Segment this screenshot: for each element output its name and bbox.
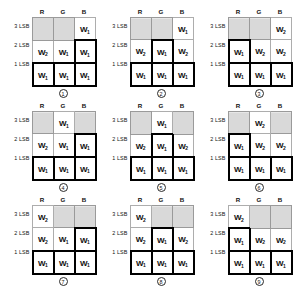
watermark-symbol: W1 xyxy=(80,231,90,250)
cell-r-2lsb: W1 xyxy=(229,134,250,157)
column-header-g: G xyxy=(53,6,74,17)
watermark-subscript: 1 xyxy=(87,29,90,35)
watermark-subscript: 2 xyxy=(45,145,48,151)
matrix-row: W1W1W1 xyxy=(33,157,96,180)
matrix-row: W2W1W1 xyxy=(33,40,96,63)
watermark-symbol: W1 xyxy=(255,254,265,273)
column-header-row: RGB xyxy=(228,6,293,17)
panel-4: 3 LSB2 LSB1 LSBRGBW1W2W1W1W1W1W14 xyxy=(3,100,99,192)
row-label-column: 3 LSB2 LSB1 LSB xyxy=(104,194,130,262)
watermark-subscript: 1 xyxy=(87,145,90,151)
watermark-symbol: W1 xyxy=(59,254,69,273)
panel-row: 3 LSB2 LSB1 LSBRGBW1W2W1W1W1W1W143 LSB2 … xyxy=(3,100,295,192)
matrix-row: W2 xyxy=(229,206,292,229)
panel-1: 3 LSB2 LSB1 LSBRGBW1W2W1W1W1W1W11 xyxy=(3,6,99,98)
column-header-b: B xyxy=(74,194,95,205)
column-header-b: B xyxy=(74,100,95,111)
watermark-subscript: 1 xyxy=(185,29,188,35)
watermark-symbol: W1 xyxy=(59,66,69,85)
row-label-3: 1 LSB xyxy=(6,243,32,262)
matrix-row: W2W1W2 xyxy=(131,134,194,157)
cell-g-3lsb: W1 xyxy=(54,112,75,134)
watermark-symbol: W2 xyxy=(136,42,146,61)
cell-b-3lsb xyxy=(271,112,292,134)
matrix-row: W1W1W1 xyxy=(229,63,292,86)
matrix-row: W1W1W1 xyxy=(131,251,194,274)
cell-g-2lsb: W1 xyxy=(54,134,75,157)
watermark-symbol: W1 xyxy=(234,231,244,250)
watermark-symbol: W1 xyxy=(59,136,69,155)
panel-9: 3 LSB2 LSB1 LSBRGBW2W1W2W2W1W1W19 xyxy=(199,194,295,286)
watermark-symbol: W1 xyxy=(178,254,188,273)
cell-r-1lsb: W1 xyxy=(33,251,54,274)
cell-b-1lsb: W1 xyxy=(271,63,292,86)
cell-g-3lsb: W1 xyxy=(152,112,173,135)
watermark-symbol: W1 xyxy=(234,137,244,156)
cell-r-3lsb: W2 xyxy=(33,206,54,228)
watermark-symbol: W1 xyxy=(157,254,167,273)
watermark-symbol: W1 xyxy=(178,66,188,85)
row-label-1: 3 LSB xyxy=(202,17,228,36)
row-label-column: 3 LSB2 LSB1 LSB xyxy=(202,6,228,74)
watermark-symbol: W2 xyxy=(276,231,286,250)
cell-b-2lsb: W1 xyxy=(75,40,96,63)
column-header-g: G xyxy=(151,100,172,111)
cell-g-1lsb: W1 xyxy=(250,63,271,86)
watermark-symbol: W1 xyxy=(80,43,90,62)
watermark-symbol: W1 xyxy=(59,114,69,133)
panel-caption: 5 xyxy=(157,183,166,192)
matrix-row: W2W1W1 xyxy=(33,134,96,157)
watermark-symbol: W1 xyxy=(59,230,69,249)
watermark-subscript: 1 xyxy=(66,145,69,151)
watermark-symbol: W1 xyxy=(234,254,244,273)
watermark-subscript: 2 xyxy=(185,239,188,245)
column-header-b: B xyxy=(172,194,193,205)
watermark-symbol: W1 xyxy=(38,66,48,85)
row-label-1: 3 LSB xyxy=(202,111,228,130)
cell-b-3lsb xyxy=(173,206,194,228)
watermark-subscript: 2 xyxy=(143,51,146,57)
watermark-symbol: W1 xyxy=(59,43,69,62)
cell-r-1lsb: W1 xyxy=(229,251,250,274)
watermark-subscript: 1 xyxy=(87,52,90,58)
panel-caption: 6 xyxy=(255,183,264,192)
watermark-subscript: 1 xyxy=(87,75,90,81)
matrix-row: W1W1W1 xyxy=(229,157,292,180)
watermark-symbol: W1 xyxy=(80,254,90,273)
row-label-2: 2 LSB xyxy=(6,224,32,243)
panel-body: 3 LSB2 LSB1 LSBRGBW2W1W2W2W1W1W1 xyxy=(202,194,293,275)
column-header-b: B xyxy=(74,6,95,17)
watermark-subscript: 1 xyxy=(164,239,167,245)
watermark-symbol: W1 xyxy=(136,254,146,273)
matrix-row: W2W1W1 xyxy=(33,228,96,251)
row-label-3: 1 LSB xyxy=(104,55,130,74)
cell-r-3lsb: W2 xyxy=(229,206,250,229)
watermark-subscript: 2 xyxy=(241,217,244,223)
lsb-channel-matrix: W2W2W1W1W1W1W1 xyxy=(32,205,97,275)
cell-g-3lsb xyxy=(250,18,271,40)
watermark-symbol: W2 xyxy=(38,208,48,227)
watermark-symbol: W1 xyxy=(255,66,265,85)
watermark-symbol: W2 xyxy=(136,137,146,156)
cell-r-1lsb: W1 xyxy=(131,63,152,86)
matrix-row: W1 xyxy=(33,18,96,41)
watermark-symbol: W1 xyxy=(157,66,167,85)
watermark-subscript: 2 xyxy=(283,51,286,57)
matrix-row: W2 xyxy=(131,206,194,228)
watermark-subscript: 2 xyxy=(262,145,265,151)
watermark-subscript: 2 xyxy=(45,217,48,223)
watermark-symbol: W1 xyxy=(276,254,286,273)
watermark-subscript: 1 xyxy=(262,263,265,269)
matrix-area: RGBW1W2W1W2W1W1W1 xyxy=(130,100,195,181)
watermark-subscript: 2 xyxy=(143,145,146,151)
watermark-subscript: 1 xyxy=(45,75,48,81)
watermark-symbol: W2 xyxy=(136,230,146,249)
column-header-row: RGB xyxy=(32,6,97,17)
column-header-r: R xyxy=(228,6,249,17)
watermark-subscript: 1 xyxy=(185,262,188,268)
cell-b-3lsb xyxy=(75,112,96,134)
watermark-subscript: 1 xyxy=(143,262,146,268)
watermark-symbol: W2 xyxy=(234,208,244,227)
column-header-r: R xyxy=(32,194,53,205)
